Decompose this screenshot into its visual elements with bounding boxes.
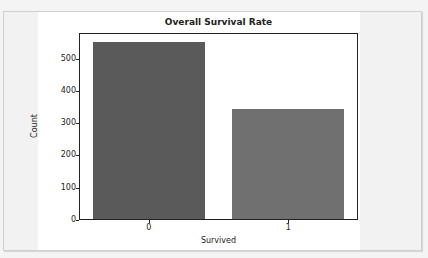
plot-area	[79, 33, 358, 220]
x-axis-label: Survived	[79, 236, 358, 245]
bar-0	[93, 42, 205, 219]
y-tick-label: 300	[50, 118, 76, 128]
y-tick-label: 200	[50, 150, 76, 160]
y-tick-mark	[76, 220, 79, 221]
y-axis-label: Count	[30, 106, 39, 146]
y-tick-mark	[76, 188, 79, 189]
y-tick-label: 100	[50, 183, 76, 193]
chart-title: Overall Survival Rate	[79, 17, 358, 27]
x-tick-label: 1	[278, 223, 298, 232]
y-tick-label: 500	[50, 54, 76, 64]
y-tick-mark	[76, 123, 79, 124]
x-tick-label: 0	[139, 223, 159, 232]
y-tick-mark	[76, 91, 79, 92]
bar-1	[232, 109, 344, 219]
y-tick-label: 400	[50, 86, 76, 96]
y-tick-label: 0	[50, 215, 76, 225]
y-tick-mark	[76, 155, 79, 156]
y-tick-mark	[76, 59, 79, 60]
